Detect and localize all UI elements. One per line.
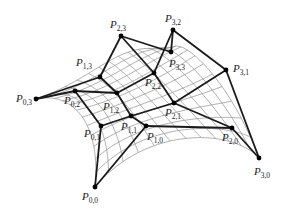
- point-label-0-1: P0,1: [83, 127, 100, 142]
- point-label-3-0: P3,0: [253, 165, 270, 180]
- control-point-3-0: [257, 156, 262, 161]
- bezier-surface-diagram: P0,0P0,1P0,2P0,3P1,0P1,1P1,2P1,3P2,0P2,1…: [0, 0, 284, 214]
- point-label-1-3: P1,3: [75, 56, 92, 71]
- control-point-0-0: [93, 185, 98, 190]
- control-point-1-3: [98, 75, 103, 80]
- control-net-edge: [95, 126, 146, 187]
- control-point-1-1: [129, 114, 134, 119]
- control-point-2-2: [152, 71, 157, 76]
- control-net-edge: [131, 116, 146, 126]
- control-point-2-3: [119, 34, 124, 39]
- control-point-3-2: [171, 28, 176, 33]
- control-point-0-3: [34, 97, 39, 102]
- control-point-3-1: [224, 68, 229, 73]
- control-point-3-3: [169, 50, 174, 55]
- control-point-2-1: [172, 101, 177, 106]
- control-point-1-0: [144, 124, 149, 129]
- control-point-0-1: [99, 124, 104, 129]
- point-label-0-3: P0,3: [15, 92, 32, 107]
- point-label-3-2: P3,2: [164, 12, 181, 27]
- surface-grid-line: [36, 98, 96, 187]
- point-label-1-1: P1,1: [120, 120, 137, 135]
- point-label-2-3: P2,3: [109, 18, 126, 33]
- control-point-1-2: [115, 91, 120, 96]
- point-label-1-0: P1,0: [146, 130, 163, 145]
- point-label-3-1: P3,1: [232, 62, 249, 77]
- point-label-0-0: P0,0: [81, 190, 98, 205]
- control-point-2-0: [230, 126, 235, 131]
- diagram-canvas: P0,0P0,1P0,2P0,3P1,0P1,1P1,2P1,3P2,0P2,1…: [0, 0, 284, 214]
- control-net-edge: [100, 77, 117, 93]
- point-labels: P0,0P0,1P0,2P0,3P1,0P1,1P1,2P1,3P2,0P2,1…: [15, 12, 270, 205]
- control-point-0-2: [73, 89, 78, 94]
- surface-grid: [36, 46, 259, 187]
- control-points: [34, 28, 262, 190]
